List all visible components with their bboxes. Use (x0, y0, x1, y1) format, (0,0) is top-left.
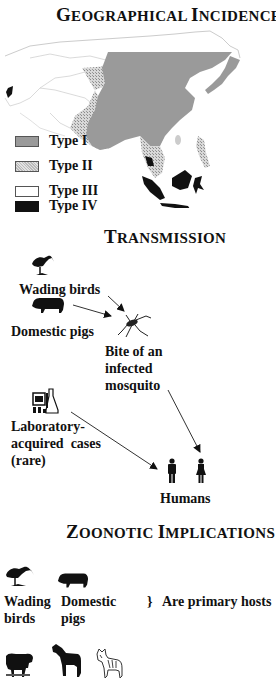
legend-label: Type I (49, 133, 87, 149)
legend-item-type1: Type I (15, 133, 87, 149)
domestic-pigs-label: Domestic pigs (11, 323, 94, 340)
zoonotic-pig-label-line2: pigs (61, 610, 85, 627)
legend-label: Type II (49, 158, 93, 174)
mosquito-icon (116, 313, 152, 337)
geographical-incidence-title: GEOGRAPHICAL INCIDENCE (56, 4, 276, 26)
legend-item-type4: Type IV (15, 198, 97, 214)
humans-label: Humans (160, 490, 211, 507)
legend-item-type2: Type II (15, 158, 93, 174)
mosquito-label-line1: Bite of an (105, 343, 163, 360)
sheep-icon (4, 650, 34, 678)
laboratory-icon (32, 388, 60, 414)
wading-bird-icon (30, 252, 56, 278)
title-initial: Z (66, 521, 79, 542)
horse-icon (50, 643, 82, 679)
zoonotic-implications-title: ZOONOTIC IMPLICATIONS (66, 521, 275, 543)
mosquito-label-line2: infected (105, 360, 152, 377)
pig-icon (31, 295, 65, 315)
mosquito-label-line3: mosquito (105, 377, 160, 394)
brace: } (147, 593, 153, 610)
type2-swatch (15, 161, 39, 172)
title-initial: G (56, 4, 71, 25)
lab-label-line3: (rare) (11, 452, 46, 469)
zoonotic-pig-label-line1: Domestic (61, 593, 116, 610)
title-rest: OONOTIC (79, 525, 158, 541)
lab-label-line1: Laboratory- (11, 418, 85, 435)
pig-icon (57, 570, 89, 590)
dog-icon (94, 648, 124, 680)
title-rest-2: NCIDENCE (199, 8, 276, 24)
type1-swatch (15, 136, 39, 147)
woman-icon (195, 458, 207, 484)
legend-item-type3: Type III (15, 183, 98, 199)
primary-hosts-label: Are primary hosts (162, 593, 271, 610)
type4-swatch (15, 201, 39, 212)
legend-label: Type IV (49, 198, 97, 214)
transmission-title: TRANSMISSION (104, 226, 226, 248)
zoonotic-bird-label-line2: birds (4, 610, 35, 627)
legend-label: Type III (49, 183, 98, 199)
asia-map (0, 28, 276, 208)
title-initial-2: I (191, 4, 199, 25)
wading-bird-icon (4, 563, 36, 589)
lab-label-line2: acquired cases (11, 435, 101, 452)
title-rest-2: MPLICATIONS (165, 525, 275, 541)
zoonotic-bird-label-line1: Wading (4, 593, 51, 610)
title-initial: T (104, 226, 117, 247)
title-rest: RANSMISSION (117, 230, 226, 246)
title-rest: EOGRAPHICAL (71, 8, 191, 24)
man-icon (166, 458, 178, 484)
type3-swatch (15, 186, 39, 197)
